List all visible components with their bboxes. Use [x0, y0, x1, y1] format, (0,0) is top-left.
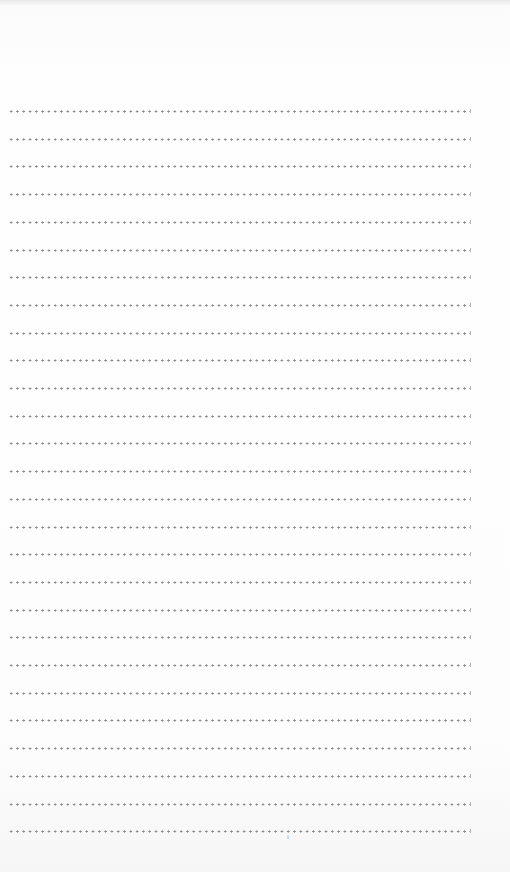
line-end-tick [470, 275, 471, 279]
dotted-line [8, 249, 470, 252]
line-end-tick [470, 414, 471, 418]
line-end-tick [470, 691, 471, 695]
dotted-line [8, 165, 470, 168]
line-end-tick [470, 552, 471, 556]
dotted-line [8, 775, 470, 778]
line-end-tick [470, 663, 471, 667]
dotted-line [8, 636, 470, 639]
dotted-line [8, 747, 470, 750]
dotted-line [8, 664, 470, 667]
dotted-line [8, 526, 470, 529]
dotted-line [8, 803, 470, 806]
dotted-line [8, 470, 470, 473]
dotted-line [8, 498, 470, 501]
dotted-line [8, 276, 470, 279]
line-end-tick [470, 358, 471, 362]
line-end-tick [470, 441, 471, 445]
line-end-tick [470, 331, 471, 335]
dotted-ruled-lines [8, 0, 474, 872]
line-end-tick [470, 497, 471, 501]
line-end-tick [470, 802, 471, 806]
dotted-line [8, 553, 470, 556]
dotted-line [8, 387, 470, 390]
line-end-tick [470, 774, 471, 778]
dotted-line [8, 359, 470, 362]
line-end-tick [470, 192, 471, 196]
dotted-line [8, 719, 470, 722]
line-end-tick [470, 220, 471, 224]
dotted-line [8, 304, 470, 307]
ruled-page: i [0, 0, 510, 872]
dotted-line [8, 609, 470, 612]
dotted-line [8, 193, 470, 196]
line-end-tick [470, 469, 471, 473]
line-end-tick [470, 164, 471, 168]
line-end-tick [470, 829, 471, 833]
line-end-tick [470, 746, 471, 750]
line-end-tick [470, 303, 471, 307]
line-end-tick [470, 525, 471, 529]
line-end-tick [470, 635, 471, 639]
dotted-line [8, 442, 470, 445]
dotted-line [8, 138, 470, 141]
line-end-tick [470, 248, 471, 252]
dotted-line [8, 581, 470, 584]
dotted-line [8, 415, 470, 418]
dotted-line [8, 830, 470, 833]
line-end-tick [470, 386, 471, 390]
line-end-tick [470, 137, 471, 141]
line-end-tick [470, 718, 471, 722]
dotted-line [8, 110, 470, 113]
line-end-tick [470, 580, 471, 584]
page-mark: i [287, 834, 289, 841]
line-end-tick [470, 608, 471, 612]
dotted-line [8, 221, 470, 224]
line-end-tick [470, 109, 471, 113]
dotted-line [8, 332, 470, 335]
dotted-line [8, 692, 470, 695]
